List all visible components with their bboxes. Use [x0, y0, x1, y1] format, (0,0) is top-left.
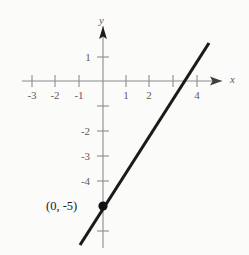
- x-tick-label--2: -2: [48, 90, 62, 101]
- x-tick-label-4: 4: [192, 90, 202, 101]
- y-tick-label--2: -2: [78, 126, 93, 137]
- y-axis-label: y: [99, 15, 104, 26]
- x-tick-label--3: -3: [25, 90, 39, 101]
- plotted-line: [80, 43, 209, 245]
- x-tick-label-1: 1: [121, 90, 131, 101]
- y-tick-label--4: -4: [78, 176, 93, 187]
- x-tick-label--1: -1: [72, 90, 86, 101]
- y-tick-label--3: -3: [78, 151, 93, 162]
- y-tick-label-1: 1: [83, 52, 93, 63]
- point-annotation-label: (0, -5): [46, 200, 77, 213]
- x-axis-label: x: [230, 74, 235, 85]
- graph-figure: y x -3 -2 -1 1 2 4 1 -2 -3 -4 (0, -5): [0, 0, 249, 255]
- x-tick-label-2: 2: [144, 90, 154, 101]
- point-marker: [98, 201, 107, 210]
- coordinate-plane: [0, 0, 249, 255]
